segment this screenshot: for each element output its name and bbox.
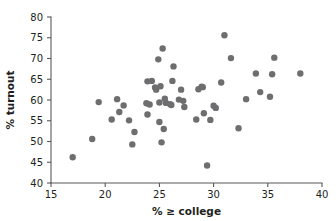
y-tick-label: 70: [30, 53, 43, 64]
data-point: [200, 84, 206, 90]
data-point: [114, 96, 120, 102]
data-point: [159, 45, 165, 51]
x-axis-tick-labels: 152025303540: [45, 189, 329, 200]
scatter-plot-figure: 152025303540 404550556065707580 % ≥ coll…: [0, 0, 336, 221]
x-axis-title: % ≥ college: [152, 205, 221, 217]
data-point: [120, 102, 126, 108]
data-point: [144, 111, 150, 117]
y-axis-title: % turnout: [4, 70, 16, 129]
data-point: [156, 99, 162, 105]
data-point: [235, 125, 241, 131]
data-point: [207, 117, 213, 123]
data-points-group: [69, 32, 303, 169]
data-point: [181, 104, 187, 110]
data-point: [146, 101, 152, 107]
data-point: [180, 98, 186, 104]
y-tick-label: 45: [30, 157, 43, 168]
y-axis-tick-labels: 404550556065707580: [30, 12, 43, 189]
y-tick-label: 60: [30, 95, 43, 106]
data-point: [155, 56, 161, 62]
data-point: [297, 70, 303, 76]
x-tick-label: 30: [207, 189, 220, 200]
data-point: [156, 119, 162, 125]
y-tick-label: 40: [30, 178, 43, 189]
data-point: [161, 126, 167, 132]
data-point: [95, 99, 101, 105]
data-point: [243, 96, 249, 102]
data-point: [213, 105, 219, 111]
x-tick-label: 25: [153, 189, 166, 200]
data-point: [201, 110, 207, 116]
data-point: [157, 83, 163, 89]
data-point: [126, 117, 132, 123]
y-tick-label: 80: [30, 12, 43, 23]
data-point: [178, 86, 184, 92]
data-point: [269, 71, 275, 77]
data-point: [149, 78, 155, 84]
data-point: [158, 139, 164, 145]
scatter-plot-svg: 152025303540 404550556065707580 % ≥ coll…: [0, 0, 336, 221]
y-tick-label: 50: [30, 136, 43, 147]
x-tick-label: 35: [261, 189, 274, 200]
data-point: [271, 54, 277, 60]
y-tick-label: 65: [30, 74, 43, 85]
data-point: [170, 63, 176, 69]
data-point: [221, 32, 227, 38]
y-tick-label: 55: [30, 115, 43, 126]
data-point: [131, 129, 137, 135]
x-tick-label: 15: [45, 189, 58, 200]
x-tick-label: 40: [316, 189, 329, 200]
data-point: [218, 79, 224, 85]
data-point: [267, 93, 273, 99]
data-point: [228, 55, 234, 61]
data-point: [257, 89, 263, 95]
data-point: [253, 70, 259, 76]
data-point: [168, 102, 174, 108]
y-tick-label: 75: [30, 32, 43, 43]
data-point: [204, 162, 210, 168]
data-point: [129, 141, 135, 147]
x-tick-label: 20: [99, 189, 112, 200]
data-point: [193, 116, 199, 122]
data-point: [169, 78, 175, 84]
data-point: [109, 116, 115, 122]
data-point: [69, 154, 75, 160]
data-point: [116, 109, 122, 115]
axes-group: [51, 17, 322, 183]
data-point: [89, 136, 95, 142]
